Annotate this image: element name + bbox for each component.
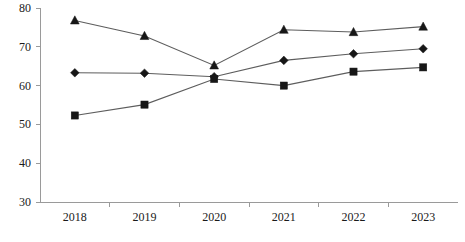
diamond-marker — [280, 56, 289, 65]
x-tick-label: 2021 — [272, 210, 296, 224]
x-axis-tick-labels: 201820192020202120222023 — [63, 210, 435, 224]
y-axis-tick-labels: 304050607080 — [19, 1, 31, 209]
square-marker — [350, 68, 357, 75]
x-tick-label: 2022 — [342, 210, 366, 224]
line-chart: 304050607080 201820192020202120222023 — [0, 0, 465, 242]
diamond-marker — [349, 49, 358, 58]
series-line-triangle — [75, 20, 423, 65]
series-line-square — [75, 67, 423, 115]
x-axis-tick-marks — [110, 202, 389, 207]
x-tick-label: 2023 — [411, 210, 435, 224]
diamond-marker — [140, 69, 149, 78]
square-marker — [280, 82, 287, 89]
y-axis-tick-marks — [36, 8, 40, 202]
x-tick-label: 2018 — [63, 210, 87, 224]
diamond-marker — [71, 68, 80, 77]
y-tick-label: 50 — [19, 117, 31, 131]
triangle-marker — [70, 16, 79, 24]
diamond-marker — [419, 44, 428, 53]
chart-canvas: 304050607080 201820192020202120222023 — [0, 0, 465, 242]
y-tick-label: 70 — [19, 40, 31, 54]
series-line-diamond — [75, 49, 423, 77]
triangle-marker — [279, 25, 288, 33]
square-marker — [141, 101, 148, 108]
y-tick-label: 30 — [19, 195, 31, 209]
y-tick-label: 60 — [19, 79, 31, 93]
y-tick-label: 80 — [19, 1, 31, 15]
y-tick-label: 40 — [19, 156, 31, 170]
square-marker — [420, 64, 427, 71]
square-marker — [71, 112, 78, 119]
x-tick-label: 2020 — [202, 210, 226, 224]
axis-lines — [40, 8, 458, 202]
triangle-marker — [210, 61, 219, 69]
square-marker — [211, 75, 218, 82]
series-polylines — [75, 20, 423, 115]
x-tick-label: 2019 — [133, 210, 157, 224]
triangle-marker — [419, 22, 428, 30]
